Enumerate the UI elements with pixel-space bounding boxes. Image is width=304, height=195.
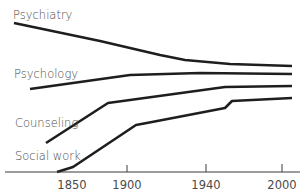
chart: Psychiatry Psychology Counseling Social …	[0, 0, 304, 195]
tick-label-2000: 2000	[267, 178, 296, 192]
label-social-work: Social work	[15, 149, 81, 163]
label-psychiatry: Psychiatry	[13, 8, 73, 22]
line-psychiatry	[14, 23, 292, 66]
label-psychology: Psychology	[14, 67, 78, 81]
line-counseling	[46, 86, 292, 143]
tick-label-1940: 1940	[191, 178, 220, 192]
line-social-work	[57, 98, 292, 172]
tick-label-1900: 1900	[112, 178, 141, 192]
tick-label-1850: 1850	[57, 178, 86, 192]
label-counseling: Counseling	[15, 116, 78, 130]
